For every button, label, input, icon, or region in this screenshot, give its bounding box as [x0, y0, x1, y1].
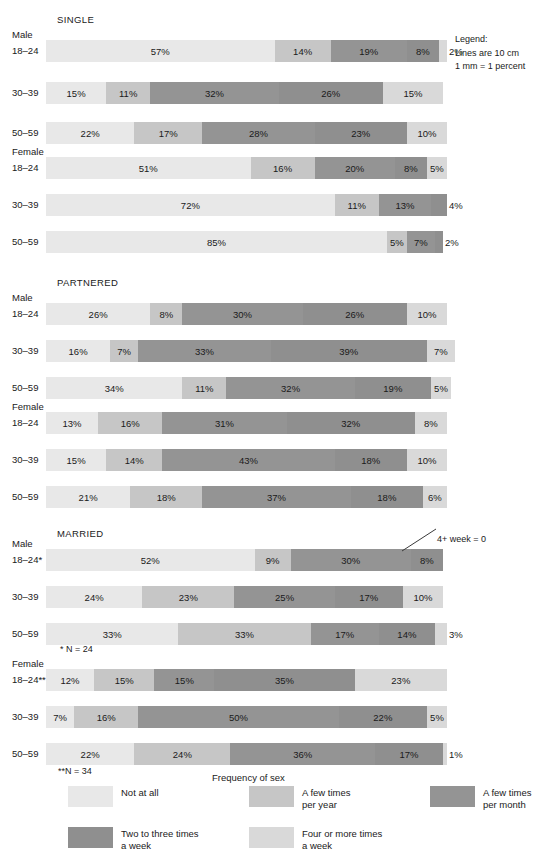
bar-segment-label: 30%	[233, 309, 252, 320]
bar-segment: 13%	[46, 412, 98, 434]
bar-segment-label: 16%	[121, 418, 140, 429]
bar-row-age-label: 18–24	[12, 412, 46, 434]
bar-segment: 22%	[339, 706, 427, 728]
bar-segment-label: 6%	[428, 492, 442, 503]
bar-segment: 3%	[435, 623, 447, 645]
bar-row-age-label: 18–24*	[12, 549, 46, 571]
bar-segment: 8%	[415, 412, 447, 434]
stacked-bar: 15%14%43%18%10%	[46, 449, 447, 471]
bar-row-age-label: 30–39	[12, 340, 46, 362]
bar-segment: 5%	[427, 706, 447, 728]
bar-segment: 24%	[46, 586, 142, 608]
footnote-double-star: **N = 34	[58, 766, 92, 776]
bar-segment-label: 22%	[81, 749, 100, 760]
bar-segment: 14%	[275, 40, 331, 62]
bar-segment: 32%	[226, 377, 354, 399]
bar-segment: 17%	[375, 743, 443, 765]
bar-segment: 15%	[46, 82, 106, 104]
bar-segment: 50%	[138, 706, 339, 728]
bar-segment: 10%	[407, 303, 447, 325]
bar-row: 30–397%16%50%22%5%	[0, 706, 539, 728]
bar-segment: 5%	[387, 231, 407, 253]
bar-segment-label: 8%	[404, 163, 418, 174]
bar-segment: 28%	[202, 122, 314, 144]
bar-segment: 12%	[46, 669, 94, 691]
bar-segment-label: 10%	[417, 455, 436, 466]
footnote-single-star: * N = 24	[60, 644, 93, 654]
bar-segment-label: 36%	[293, 749, 312, 760]
bar-segment: 7%	[46, 706, 74, 728]
bar-segment-label: 24%	[173, 749, 192, 760]
bar-segment-label: 18%	[361, 455, 380, 466]
bar-row-age-label: 50–59	[12, 623, 46, 645]
bar-segment: 24%	[134, 743, 230, 765]
bar-segment: 7%	[427, 340, 455, 362]
bar-row: 30–3915%11%32%26%15%	[0, 82, 539, 104]
bar-segment-label: 10%	[417, 309, 436, 320]
bar-segment-label: 5%	[430, 712, 444, 723]
bar-segment-label: 9%	[266, 555, 280, 566]
bar-segment: 13%	[379, 194, 431, 216]
legend-key-label: Two to three times a week	[121, 827, 199, 851]
legend-key-swatch	[249, 786, 294, 807]
bar-row: 18–2426%8%30%26%10%	[0, 303, 539, 325]
bar-segment: 8%	[395, 157, 427, 179]
bar-segment-label: 4%	[449, 200, 463, 211]
bar-segment: 52%	[46, 549, 255, 571]
bar-segment: 11%	[182, 377, 226, 399]
bar-segment: 31%	[162, 412, 286, 434]
bar-segment: 32%	[150, 82, 278, 104]
bar-row: 30–3915%14%43%18%10%	[0, 449, 539, 471]
bar-row-age-label: 30–39	[12, 706, 46, 728]
bar-segment: 7%	[110, 340, 138, 362]
bar-segment-label: 14%	[397, 629, 416, 640]
bar-segment-label: 26%	[89, 309, 108, 320]
bar-row-age-label: 50–59	[12, 231, 46, 253]
bar-segment: 15%	[383, 82, 443, 104]
bar-segment-label: 14%	[293, 46, 312, 57]
bar-segment-label: 15%	[403, 88, 422, 99]
bar-segment-label: 15%	[67, 88, 86, 99]
bar-segment: 35%	[214, 669, 354, 691]
bar-segment-label: 22%	[81, 128, 100, 139]
bar-segment: 30%	[182, 303, 302, 325]
stacked-bar: 34%11%32%19%5%	[46, 377, 451, 399]
bar-segment-label: 25%	[275, 592, 294, 603]
legend-key-swatch	[68, 827, 113, 848]
sex-label-married-male: Male	[12, 538, 33, 549]
bar-segment-label: 28%	[249, 128, 268, 139]
bar-row-age-label: 18–24**	[12, 669, 46, 691]
bar-segment-label: 21%	[79, 492, 98, 503]
annotation-leader-line	[402, 527, 442, 553]
bar-row: 50–5922%17%28%23%10%	[0, 122, 539, 144]
bar-segment: 34%	[46, 377, 182, 399]
bar-segment: 26%	[279, 82, 383, 104]
bar-segment: 5%	[427, 157, 447, 179]
bar-segment: 43%	[162, 449, 334, 471]
bar-segment-label: 5%	[430, 163, 444, 174]
stacked-bar: 85%5%7%2%	[46, 231, 443, 253]
bar-segment: 2%	[435, 231, 443, 253]
stacked-bar-chart: Legend: Lines are 10 cm 1 mm = 1 percent…	[0, 0, 539, 861]
sex-label-partnered-female: Female	[12, 401, 44, 412]
bar-row: 18–24*52%9%30%8%	[0, 549, 539, 571]
bar-segment-label: 51%	[139, 163, 158, 174]
bar-segment-label: 1%	[449, 749, 463, 760]
bar-segment-label: 7%	[53, 712, 67, 723]
stacked-bar: 7%16%50%22%5%	[46, 706, 447, 728]
bar-segment-label: 2%	[449, 46, 463, 57]
bar-segment-label: 72%	[181, 200, 200, 211]
bar-segment: 5%	[431, 377, 451, 399]
legend-key-swatch	[430, 786, 475, 807]
bar-segment: 7%	[407, 231, 435, 253]
legend-key-swatch	[68, 786, 113, 807]
bar-segment-label: 23%	[179, 592, 198, 603]
stacked-bar: 72%11%13%4%	[46, 194, 447, 216]
bar-row-age-label: 18–24	[12, 40, 46, 62]
bar-segment: 16%	[98, 412, 162, 434]
bar-segment-label: 7%	[117, 346, 131, 357]
bar-segment: 11%	[335, 194, 379, 216]
bar-segment-label: 16%	[97, 712, 116, 723]
legend-key-label: Four or more times a week	[302, 827, 382, 851]
bar-row-age-label: 50–59	[12, 486, 46, 508]
